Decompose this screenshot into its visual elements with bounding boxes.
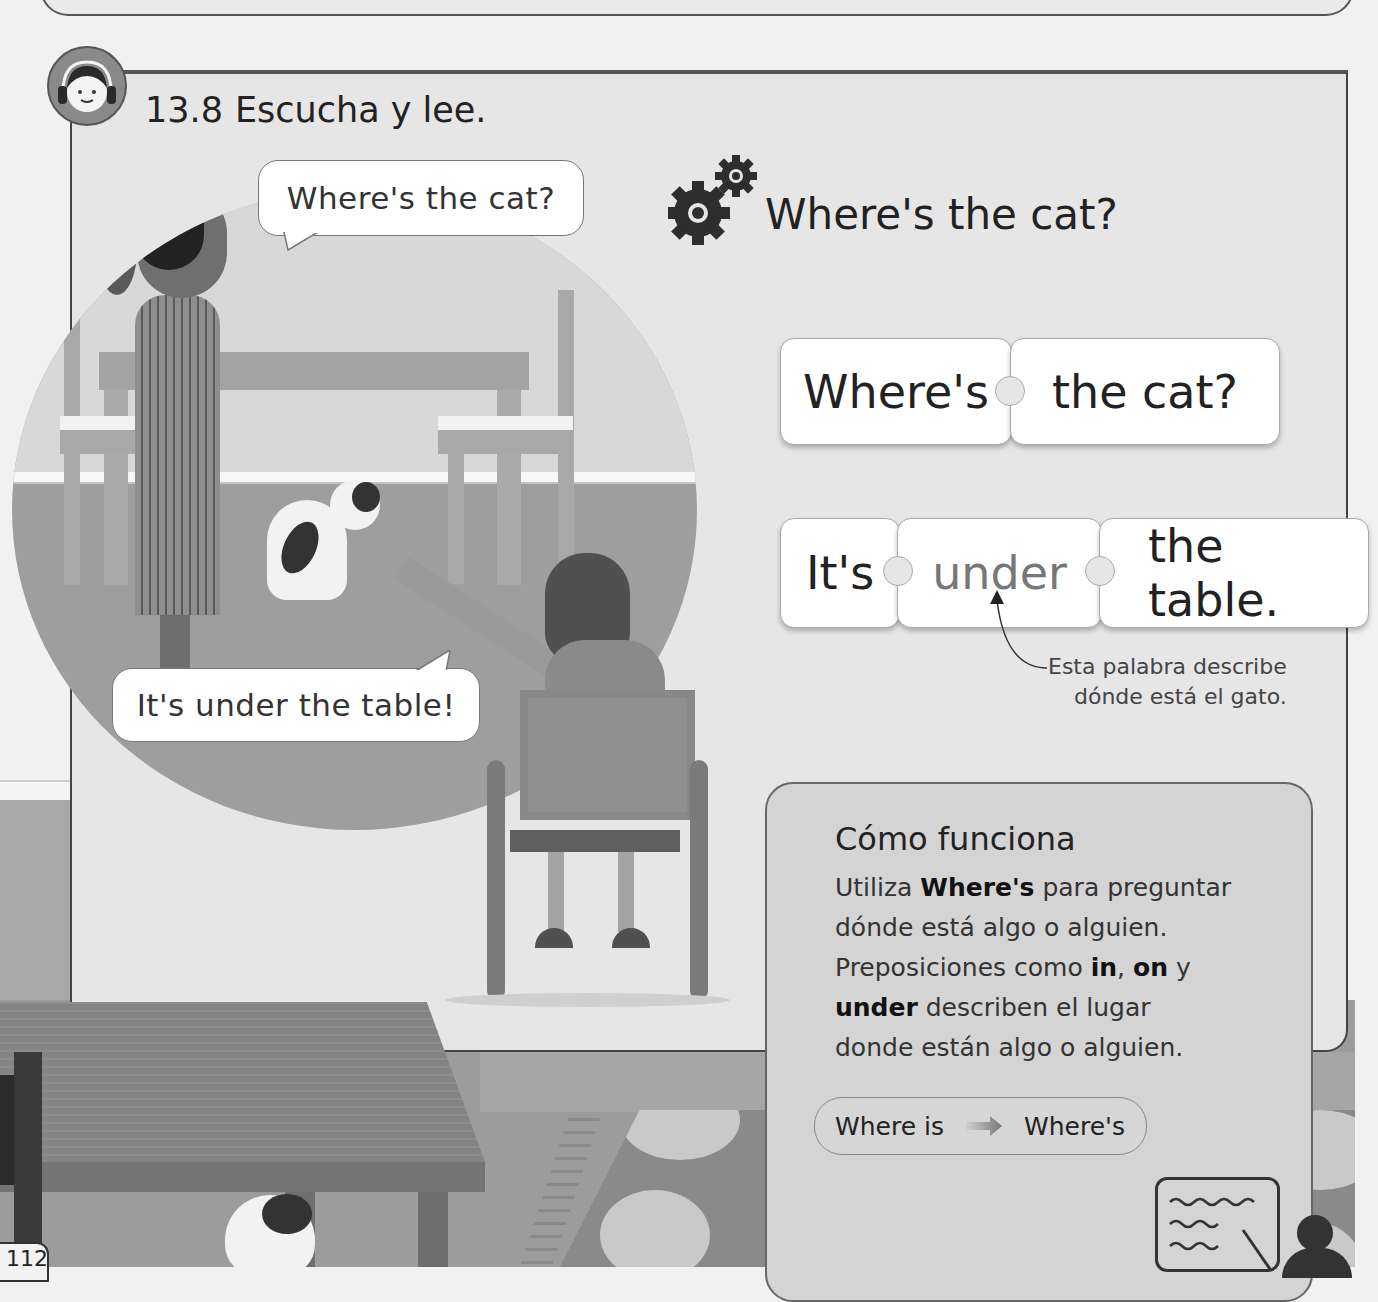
foreground-chair-back [0,1075,14,1185]
exercise-title: 13.8Escucha y lee. [145,90,486,130]
annotation-arrow-icon [985,588,1055,678]
girl-dress [135,295,220,615]
exercise-instruction: Escucha y lee. [235,90,487,130]
puzzle-piece-wheres: Where's [780,338,1012,445]
how-it-works-title: Cómo funciona [835,820,1076,858]
speech-bubble-answer: It's under the table! [112,668,480,742]
foreground-chair [14,1052,42,1267]
speech-bubble-question: Where's the cat? [258,160,584,236]
bubble-tail [282,232,326,254]
wheelchair-back [520,690,695,820]
piece-text: the table. [1148,519,1368,627]
annotation-line: dónde está el gato. [1048,682,1287,712]
grammar-heading: Where's the cat? [765,190,1118,239]
previous-section-box [40,0,1354,16]
foreground-table [0,1002,485,1162]
girl-leg [160,615,190,675]
piece-text: It's [806,546,874,600]
puzzle-piece-the-table: the table. [1099,518,1369,628]
wheelchair-shadow [445,993,730,1007]
wheelchair-wheel-right [690,760,708,1000]
puzzle-knob [995,376,1025,406]
how-it-works-body: Utiliza Where's para preguntar dónde est… [835,868,1255,1068]
contraction-pill: Where is Where's [814,1097,1147,1155]
contraction-full: Where is [835,1112,944,1141]
bubble-answer-text: It's under the table! [137,687,456,723]
page-number: 112 [0,1242,49,1282]
puzzle-piece-its: It's [780,518,900,628]
wall-left [0,800,70,1000]
puzzle-knob [883,556,913,586]
wheelchair-seat [510,830,680,852]
piece-text: Where's [803,365,989,419]
girl-hair [134,190,204,270]
wall-trim [0,780,70,802]
gears-icon [668,148,768,248]
wheelchair-wheel-left [487,760,505,1000]
exercise-number: 13.8 [145,90,223,130]
puzzle-knob [1085,556,1115,586]
table-leg [418,1192,448,1267]
teacher-board-icon [1155,1177,1280,1272]
arrow-right-icon [966,1116,1006,1136]
headphones-child-icon [47,46,127,126]
table-apron [0,1162,485,1192]
contraction-short: Where's [1024,1112,1125,1141]
puzzle-piece-the-cat: the cat? [1010,338,1280,445]
bubble-question-text: Where's the cat? [287,180,555,216]
girl-ponytail [97,205,137,295]
teacher-head-icon [1297,1215,1333,1251]
bubble-tail [410,650,454,672]
annotation-line: Esta palabra describe [1048,652,1287,682]
annotation-text: Esta palabra describe dónde está el gato… [1048,652,1287,712]
piece-text: the cat? [1052,365,1238,419]
